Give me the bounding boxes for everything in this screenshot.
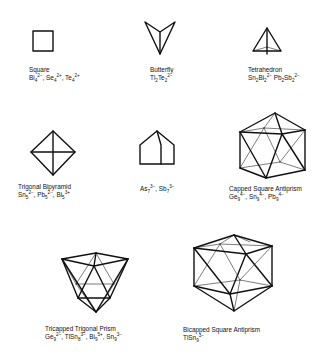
bicapped-square-antiprism-shape-icon [190,232,276,314]
cluster-formula: TlSn93− [183,334,260,342]
cluster-formula: Sn52−, Pb52−, Bi53+ [18,191,71,199]
cluster-formula: Ge92−, TlSn83−, Bi95+, Sn93− [45,333,122,341]
square-shape-icon [30,28,58,56]
cluster-formula: Tl2Te22− [150,74,173,82]
cluster-formula: As73−, Sb73− [140,185,174,193]
trigonal-bipyramid-shape-icon [28,128,80,178]
cluster-name: Tetrahedron [248,66,300,74]
tricapped-trigonal-prism-shape-icon [58,250,134,316]
cluster-formula: Bi42−, Se42+, Te42+ [29,74,80,82]
cluster-name: Bicapped Square Antiprism [183,326,260,334]
cluster-name: Trigonal Bipyramid [18,183,71,191]
butterfly-shape-icon [142,18,182,60]
nortricyclane-shape-icon [136,128,180,168]
tetrahedron-shape-icon [250,25,284,57]
capped-square-antiprism-shape-icon [236,110,316,182]
cluster-formula: Sn2Bi22− Pb2Sb22− [248,74,300,82]
cluster-formula: Ge94−, Sn94−, Pb94− [229,193,302,201]
